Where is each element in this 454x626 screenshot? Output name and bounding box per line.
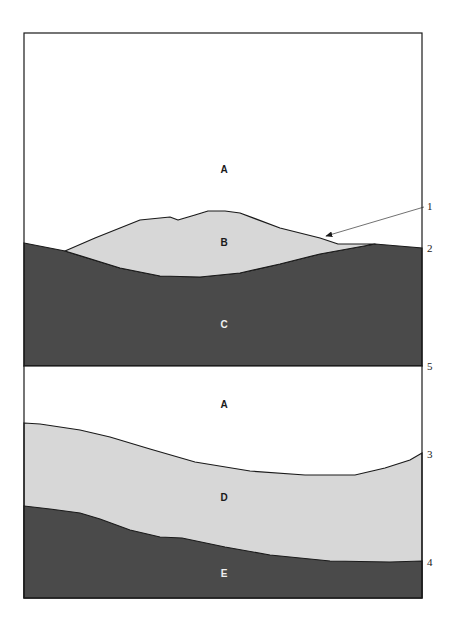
callout-2: 2 bbox=[427, 242, 433, 254]
top-panel: A B C bbox=[24, 33, 422, 366]
callout-4: 4 bbox=[427, 556, 433, 568]
region-label-d: D bbox=[220, 492, 227, 503]
region-label-e: E bbox=[221, 568, 228, 579]
callout-5: 5 bbox=[427, 360, 433, 372]
region-label-a-top: A bbox=[220, 164, 227, 175]
bottom-panel: A D E bbox=[24, 366, 422, 598]
region-label-a-bottom: A bbox=[220, 399, 227, 410]
region-label-c: C bbox=[220, 319, 227, 330]
cross-section-diagram: A B C A D E 1 2 5 3 4 bbox=[0, 0, 454, 626]
callout-1: 1 bbox=[427, 200, 433, 212]
callout-3: 3 bbox=[427, 448, 433, 460]
region-label-b: B bbox=[220, 237, 227, 248]
